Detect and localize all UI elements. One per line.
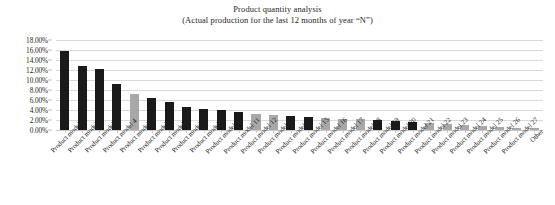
y-axis-tick-mark [48,110,52,111]
chart-page: Product quantity analysis (Actual produc… [0,0,555,205]
x-axis-slot: Product model 22 [421,131,438,201]
chart-title: Product quantity analysis [0,4,555,15]
x-axis-slot: Other [526,131,543,201]
y-axis-tick-label: 4.00% [30,106,48,115]
y-axis-tick-mark [48,80,52,81]
x-axis-slot: Product model 24 [456,131,473,201]
x-axis-slot: Product model 6 [143,131,160,201]
y-axis-tick-label: 14.00% [26,56,48,65]
x-axis: Product model 1Product model 2Product mo… [56,131,543,201]
y-axis-tick-mark [48,90,52,91]
x-axis-slot: Product model 10 [213,131,230,201]
x-axis-slot: Product model 12 [247,131,264,201]
chart-subtitle: (Actual production for the last 12 month… [0,15,555,26]
bar-slot [108,40,125,130]
y-axis-tick-label: 0.00% [30,126,48,135]
y-axis: 18.00%16.00%14.00%12.00%10.00%8.00%6.00%… [0,40,52,130]
bar-slot [195,40,212,130]
bar-slot [126,40,143,130]
bar-slot [73,40,90,130]
x-axis-slot: Product model 5 [126,131,143,201]
x-axis-slot: Product model 4 [108,131,125,201]
plot-area [56,40,543,130]
y-axis-tick-label: 16.00% [26,46,48,55]
bar-series [56,40,543,130]
x-axis-slot: Product model 9 [195,131,212,201]
y-axis-tick-label: 6.00% [30,96,48,105]
bar-slot [160,40,177,130]
x-axis-slot: Product model 20 [386,131,403,201]
y-axis-tick-label: 10.00% [26,76,48,85]
x-axis-slot: Product model 25 [473,131,490,201]
y-axis-tick-mark [48,100,52,101]
x-axis-slot: Product model 14 [282,131,299,201]
y-axis-tick-mark [48,70,52,71]
x-axis-slot: Product model 27 [508,131,525,201]
x-axis-slot: Product model 18 [352,131,369,201]
x-axis-slot: Product model 7 [160,131,177,201]
y-axis-tick-mark [48,60,52,61]
bar-slot [91,40,108,130]
x-axis-slot: Product model 8 [178,131,195,201]
x-axis-slot: Product model 19 [369,131,386,201]
y-axis-tick-mark [48,50,52,51]
y-axis-tick-mark [48,120,52,121]
y-axis-tick-label: 12.00% [26,66,48,75]
y-axis-tick-mark [48,130,52,131]
x-axis-slot: Product model 1 [56,131,73,201]
y-axis-tick-label: 8.00% [30,86,48,95]
bar-slot [213,40,230,130]
bar-slot [56,40,73,130]
bar[interactable] [60,51,69,130]
x-axis-slot: Product model 15 [299,131,316,201]
bar-slot [143,40,160,130]
chart-title-block: Product quantity analysis (Actual produc… [0,4,555,25]
x-axis-slot: Product model 23 [439,131,456,201]
x-axis-slot: Product model 21 [404,131,421,201]
y-axis-tick-label: 18.00% [26,36,48,45]
bar-slot [178,40,195,130]
x-axis-slot: Product model 3 [91,131,108,201]
x-axis-slot: Product model 17 [334,131,351,201]
x-axis-slot: Product model 26 [491,131,508,201]
y-axis-tick-label: 2.00% [30,116,48,125]
y-axis-tick-mark [48,40,52,41]
x-axis-slot: Product model 13 [265,131,282,201]
x-axis-slot: Product model 16 [317,131,334,201]
x-axis-slot: Product model 11 [230,131,247,201]
x-axis-slot: Product model 2 [73,131,90,201]
